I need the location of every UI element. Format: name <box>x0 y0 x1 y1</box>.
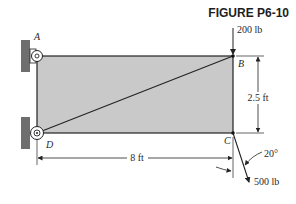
wall-support-d <box>21 117 30 149</box>
figure-diagram: FIGURE P6-10 A B C D 200 lb 2.5 ft 8 ft … <box>0 0 296 204</box>
label-b: B <box>238 58 244 69</box>
dim-height-label: 2.5 ft <box>247 92 268 103</box>
joint-b-icon <box>231 54 235 58</box>
figure-title: FIGURE P6-10 <box>208 6 289 20</box>
angle-arc-left-icon <box>216 167 231 171</box>
angle-label: 20° <box>264 148 278 159</box>
force-500lb-label: 500 lb <box>254 176 279 187</box>
label-a: A <box>33 31 41 42</box>
pin-d-center-icon <box>36 132 38 134</box>
angle-arc-right-icon <box>245 152 262 165</box>
force-200lb-label: 200 lb <box>237 24 262 35</box>
pin-a-icon <box>32 51 43 62</box>
wall-support-a <box>21 40 30 72</box>
label-c: C <box>224 135 231 146</box>
dim-width-label: 8 ft <box>130 152 144 163</box>
label-d: D <box>45 139 54 150</box>
force-500lb-arrow <box>233 133 249 182</box>
